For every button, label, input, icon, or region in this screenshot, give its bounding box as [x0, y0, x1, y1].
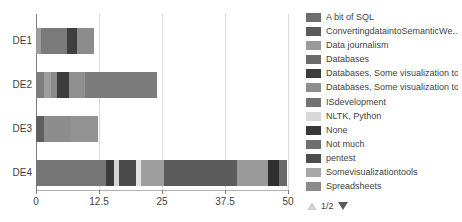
legend-item[interactable]: A bit of SQL: [306, 11, 458, 24]
bar-segment[interactable]: [44, 72, 51, 98]
plot-area: [36, 14, 288, 190]
legend-swatch-icon: [306, 41, 321, 50]
y-tick-label-de3: DE3: [0, 116, 32, 142]
legend-item-label: pentest: [326, 153, 356, 164]
x-tick-mark: [225, 190, 226, 194]
legend-item-label: Spreadsheets: [326, 181, 382, 192]
stacked-bar-chart: DE1DE2DE3DE4 012.52537.550 A bit of SQLC…: [0, 0, 462, 222]
bar-segment[interactable]: [141, 160, 164, 186]
bar-segment[interactable]: [237, 160, 268, 186]
legend-item-label: Not much: [326, 139, 365, 150]
bar-segment[interactable]: [71, 116, 98, 142]
bar-segment[interactable]: [67, 28, 77, 54]
bar-de2[interactable]: [36, 72, 157, 98]
bar-segment[interactable]: [77, 28, 95, 54]
legend-swatch-icon: [306, 69, 321, 78]
legend-swatch-icon: [306, 27, 321, 36]
legend-page-down-icon[interactable]: [338, 202, 348, 210]
x-tick-mark: [162, 190, 163, 194]
gridline: [288, 14, 289, 190]
legend-page-indicator: 1/2: [321, 201, 334, 211]
bar-segment[interactable]: [164, 160, 237, 186]
bar-segment[interactable]: [36, 72, 44, 98]
x-tick-mark: [288, 190, 289, 194]
legend-swatch-icon: [306, 168, 321, 177]
bar-de1[interactable]: [36, 28, 94, 54]
legend-item[interactable]: Spreadsheets: [306, 180, 458, 193]
bar-de3[interactable]: [36, 116, 98, 142]
legend-item[interactable]: Databases, Some visualization tools: [306, 67, 458, 80]
bar-segment[interactable]: [69, 72, 86, 98]
bar-de4[interactable]: [36, 160, 287, 186]
x-tick-label: 12.5: [79, 196, 119, 207]
legend-items: A bit of SQLConvertingdataintoSemanticWe…: [306, 11, 458, 193]
legend-swatch-icon: [306, 182, 321, 191]
legend-swatch-icon: [306, 98, 321, 107]
legend: A bit of SQLConvertingdataintoSemanticWe…: [306, 11, 458, 212]
legend-item[interactable]: Data journalism: [306, 39, 458, 52]
legend-item[interactable]: Somevisualizationtools: [306, 166, 458, 179]
y-tick-label-de4: DE4: [0, 160, 32, 186]
legend-item-label: A bit of SQL: [326, 12, 374, 23]
legend-swatch-icon: [306, 112, 321, 121]
legend-item-label: ConvertingdataintoSemanticWe...: [326, 26, 458, 37]
bar-segment[interactable]: [36, 160, 106, 186]
legend-pager[interactable]: 1/2: [307, 200, 458, 212]
legend-item[interactable]: None: [306, 124, 458, 137]
legend-item[interactable]: NLTK, Python: [306, 110, 458, 123]
x-tick-label: 50: [268, 196, 308, 207]
bar-segment[interactable]: [106, 160, 114, 186]
y-tick-label-de1: DE1: [0, 28, 32, 54]
legend-item[interactable]: Not much: [306, 138, 458, 151]
x-tick-label: 37.5: [205, 196, 245, 207]
legend-item-label: Data journalism: [326, 40, 389, 51]
bar-segment[interactable]: [279, 160, 287, 186]
legend-swatch-icon: [306, 13, 321, 22]
legend-item-label: Somevisualizationtools: [326, 167, 418, 178]
x-tick-label: 0: [16, 196, 56, 207]
legend-page-up-icon[interactable]: [307, 202, 317, 210]
bar-segment[interactable]: [85, 72, 157, 98]
legend-swatch-icon: [306, 83, 321, 92]
legend-item-label: Databases: [326, 54, 369, 65]
legend-swatch-icon: [306, 126, 321, 135]
legend-item-label: None: [326, 125, 348, 136]
bar-segment[interactable]: [44, 116, 71, 142]
x-tick-mark: [99, 190, 100, 194]
legend-item-label: NLTK, Python: [326, 111, 381, 122]
bar-segment[interactable]: [119, 160, 136, 186]
legend-swatch-icon: [306, 55, 321, 64]
legend-item[interactable]: pentest: [306, 152, 458, 165]
x-tick-label: 25: [142, 196, 182, 207]
x-tick-mark: [36, 190, 37, 194]
bar-segment[interactable]: [41, 28, 67, 54]
legend-item-label: ISdevelopment: [326, 97, 386, 108]
bar-segment[interactable]: [268, 160, 279, 186]
bar-segment[interactable]: [57, 72, 69, 98]
y-tick-label-de2: DE2: [0, 72, 32, 98]
legend-item[interactable]: ISdevelopment: [306, 96, 458, 109]
legend-swatch-icon: [306, 140, 321, 149]
bar-segment[interactable]: [36, 116, 44, 142]
legend-item-label: Databases, Some visualization tools: [326, 68, 458, 79]
legend-item-label: Databases, Some visualization too...: [326, 82, 458, 93]
legend-item[interactable]: ConvertingdataintoSemanticWe...: [306, 25, 458, 38]
legend-item[interactable]: Databases, Some visualization too...: [306, 81, 458, 94]
legend-item[interactable]: Databases: [306, 53, 458, 66]
legend-swatch-icon: [306, 154, 321, 163]
